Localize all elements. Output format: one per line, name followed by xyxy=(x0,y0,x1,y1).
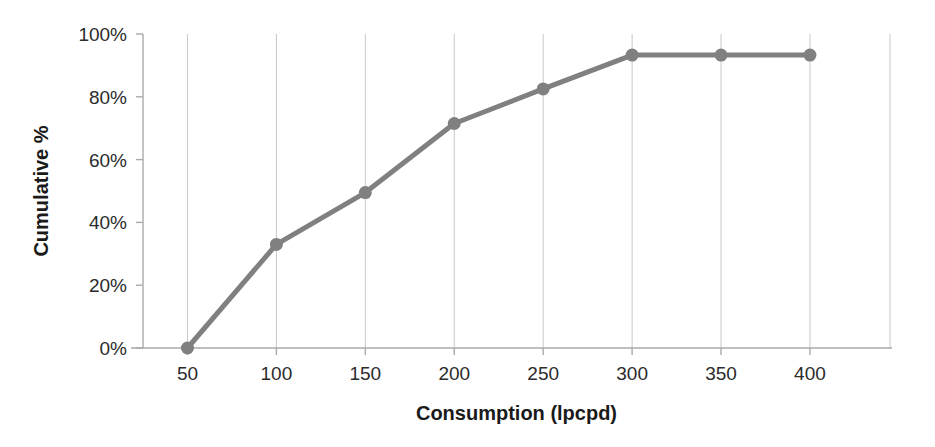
x-tick-label-150: 150 xyxy=(349,363,381,384)
x-axis-title: Consumption (lpcpd) xyxy=(416,402,617,424)
data-point-350 xyxy=(715,49,728,62)
y-tick-label-80%: 80% xyxy=(89,87,127,108)
y-tick-label-60%: 60% xyxy=(89,150,127,171)
x-tick-label-200: 200 xyxy=(438,363,470,384)
x-tick-label-300: 300 xyxy=(616,363,648,384)
data-point-150 xyxy=(359,186,372,199)
y-tick-label-100%: 100% xyxy=(78,24,127,45)
data-point-400 xyxy=(803,49,816,62)
data-point-300 xyxy=(626,49,639,62)
y-tick-label-20%: 20% xyxy=(89,275,127,296)
chart-canvas: 0%20%40%60%80%100% 501001502002503003504… xyxy=(0,0,935,447)
data-point-250 xyxy=(537,82,550,95)
y-axis-title: Cumulative % xyxy=(30,125,52,256)
x-tick-label-350: 350 xyxy=(705,363,737,384)
x-tick-label-100: 100 xyxy=(261,363,293,384)
data-point-200 xyxy=(448,117,461,130)
cumulative-consumption-chart: 0%20%40%60%80%100% 501001502002503003504… xyxy=(0,0,935,447)
x-tick-label-50: 50 xyxy=(177,363,198,384)
data-point-100 xyxy=(270,238,283,251)
x-tick-label-250: 250 xyxy=(527,363,559,384)
x-tick-label-400: 400 xyxy=(794,363,826,384)
y-tick-label-0%: 0% xyxy=(100,338,128,359)
y-tick-label-40%: 40% xyxy=(89,212,127,233)
data-point-50 xyxy=(181,342,194,355)
